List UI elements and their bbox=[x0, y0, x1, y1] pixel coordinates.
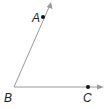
angle-diagram: A C B bbox=[0, 0, 106, 109]
label-a: A bbox=[31, 11, 40, 25]
label-b: B bbox=[4, 91, 12, 105]
point-a bbox=[41, 15, 45, 19]
label-c: C bbox=[83, 91, 92, 105]
ray-bc-arrowhead-icon bbox=[97, 85, 104, 90]
point-c bbox=[86, 85, 90, 89]
ray-ba-arrowhead-icon bbox=[47, 2, 53, 9]
